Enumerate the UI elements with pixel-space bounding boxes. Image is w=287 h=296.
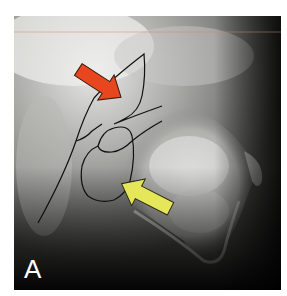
radiograph-image	[14, 16, 281, 290]
radiograph-panel: A	[14, 16, 281, 290]
panel-label: A	[24, 256, 41, 282]
